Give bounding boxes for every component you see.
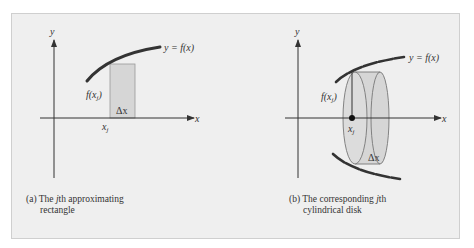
height-label: f(xj) — [321, 91, 338, 104]
left-diagram: y x y = f(x) f(xj) Δx xj — [40, 26, 200, 178]
curve-label: y = f(x) — [408, 52, 440, 64]
caption-a-suffix: th approximating — [59, 194, 124, 204]
caption-a-prefix: (a) The — [26, 194, 56, 204]
caption-b-prefix: (b) The corresponding — [289, 194, 376, 204]
caption-b-line2: cylindrical disk — [289, 205, 386, 216]
right-diagram: y x y = f(x) f(xj) xj Δx — [285, 26, 447, 179]
x-axis-label: x — [441, 113, 447, 124]
caption-b: (b) The corresponding jth cylindrical di… — [289, 194, 386, 216]
xj-point — [349, 115, 355, 121]
y-axis-label: y — [294, 26, 300, 37]
height-label: f(xj) — [86, 89, 103, 102]
curve-label: y = f(x) — [163, 42, 195, 54]
x-axis-label: x — [194, 113, 200, 124]
xj-label: xj — [101, 121, 108, 134]
delta-x-label: Δx — [116, 105, 127, 116]
caption-a-line2: rectangle — [26, 205, 124, 216]
y-axis-label: y — [49, 26, 55, 37]
caption-b-suffix: th — [379, 194, 386, 204]
caption-a: (a) The jth approximating rectangle — [26, 194, 124, 216]
delta-x-label: Δx — [368, 152, 379, 163]
